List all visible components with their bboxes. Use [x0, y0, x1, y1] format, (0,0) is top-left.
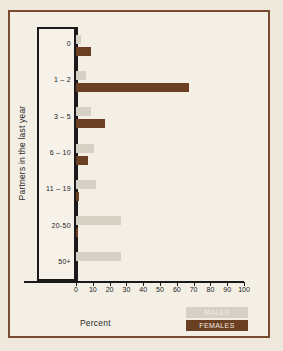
bar-females-0: [76, 47, 91, 56]
y-axis-title: Partners in the last year: [17, 73, 27, 233]
x-tick-label: 60: [169, 286, 185, 293]
category-label: 20-50: [37, 222, 71, 229]
category-label: 50+: [37, 258, 71, 265]
category-label: 3 – 5: [37, 113, 71, 120]
x-tick-label: 30: [118, 286, 134, 293]
x-tick-label: 50: [152, 286, 168, 293]
bar-males-0: [76, 35, 81, 44]
x-axis-left-stub: [24, 281, 76, 283]
plot-area: Partners in the last year 01 – 23 – 56 –…: [0, 0, 283, 351]
bar-females-2: [76, 119, 105, 128]
category-label: 11 – 19: [37, 185, 71, 192]
x-tick-label: 20: [102, 286, 118, 293]
category-label: 0: [37, 40, 71, 47]
bar-females-5: [76, 228, 78, 237]
y-axis-line: [76, 27, 78, 281]
x-tick-label: 10: [85, 286, 101, 293]
x-tick-label: 90: [219, 286, 235, 293]
legend: MALES FEMALES: [186, 307, 248, 333]
bar-males-6: [76, 252, 121, 261]
x-tick-label: 40: [135, 286, 151, 293]
chart-figure: Partners in the last year 01 – 23 – 56 –…: [0, 0, 283, 351]
bar-males-5: [76, 216, 121, 225]
bar-males-1: [76, 71, 86, 80]
x-axis-title: Percent: [80, 318, 111, 328]
x-tick-label: 80: [202, 286, 218, 293]
bar-males-3: [76, 144, 94, 153]
bar-females-4: [76, 192, 79, 201]
category-label: 1 – 2: [37, 76, 71, 83]
bar-males-2: [76, 107, 91, 116]
legend-item-females: FEMALES: [186, 320, 248, 331]
bar-females-1: [76, 83, 189, 92]
x-tick-label: 0: [68, 286, 84, 293]
x-tick-label: 70: [186, 286, 202, 293]
category-label: 6 – 10: [37, 149, 71, 156]
x-tick-label: 100: [236, 286, 252, 293]
bar-males-4: [76, 180, 96, 189]
legend-item-males: MALES: [186, 307, 248, 318]
bar-females-3: [76, 156, 88, 165]
